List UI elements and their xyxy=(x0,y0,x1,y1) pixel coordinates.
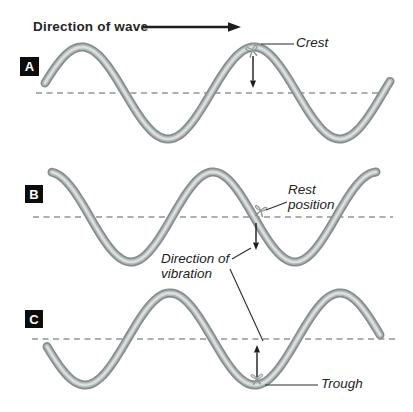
panel-a-label: A xyxy=(20,57,39,76)
pointer-line-rest-position xyxy=(266,202,287,210)
direction-of-vibration-label: Direction of vibration xyxy=(161,252,229,281)
diagram-canvas xyxy=(0,0,413,412)
crest-label: Crest xyxy=(296,36,328,51)
vibration-arrow-c-head xyxy=(254,345,260,353)
direction-of-wave-label: Direction of wave xyxy=(33,19,148,34)
rest-position-label: Rest position xyxy=(288,183,335,212)
transverse-wave-diagram: Direction of wave A B C Crest Rest posit… xyxy=(0,0,413,412)
panel-c-label: C xyxy=(25,310,43,328)
pointer-line-vibration-to-b xyxy=(232,248,251,259)
trough-label: Trough xyxy=(321,377,363,392)
panel-b-label: B xyxy=(25,185,43,203)
ribbon-marker-part xyxy=(255,377,258,380)
vibration-arrow-b-head xyxy=(253,243,259,251)
direction-of-wave-arrow-head xyxy=(228,22,241,32)
pointer-line-vibration-to-c xyxy=(230,269,263,341)
vibration-arrow-a-head xyxy=(250,81,256,89)
